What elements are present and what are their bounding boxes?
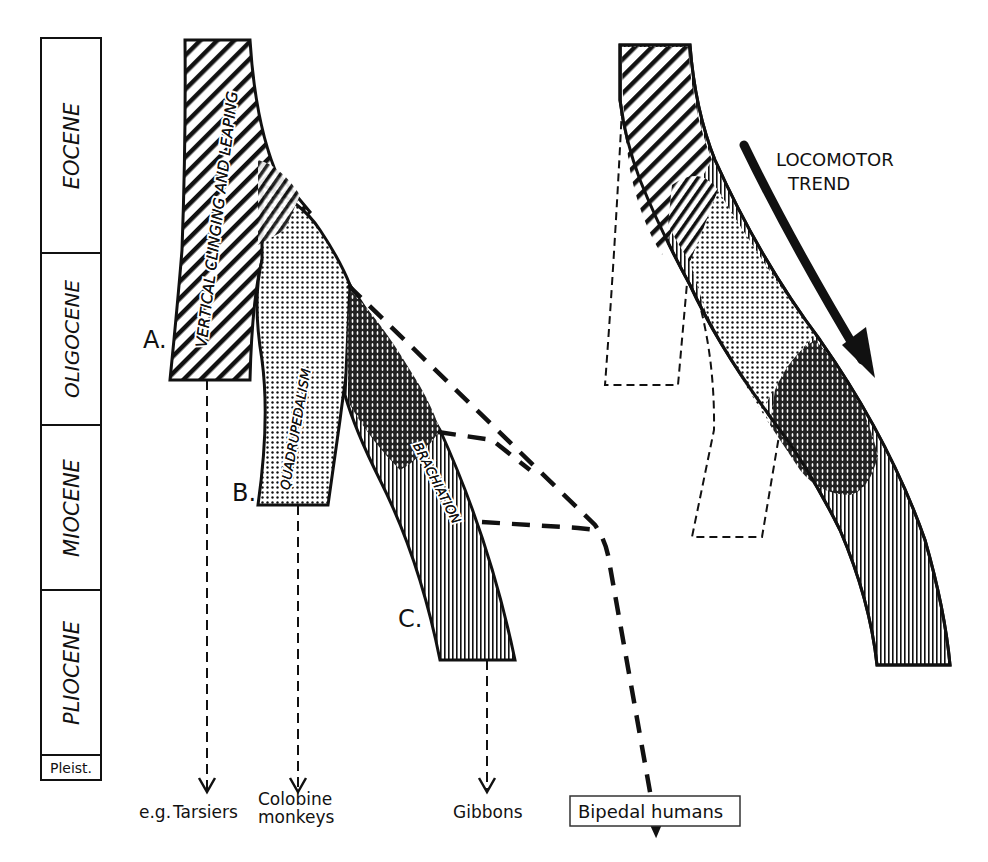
outcome-bipedal-humans: Bipedal humans: [578, 801, 723, 822]
outcome-tarsiers: Tarsiers: [172, 802, 238, 822]
epoch-label-oligocene: OLIGOCENE: [60, 280, 84, 399]
example-prefix: e.g.: [139, 802, 171, 822]
lineage-marker-a: A.: [143, 326, 167, 354]
epoch-label-eocene: EOCENE: [60, 102, 84, 189]
locomotor-evolution-diagram: EOCENE OLIGOCENE MIOCENE PLIOCENE Pleist…: [0, 0, 988, 862]
epoch-label-pleistocene: Pleist.: [50, 760, 92, 776]
bipedal-branch-dashed-line-2: [482, 522, 598, 530]
locomotor-trend-panel: LOCOMOTOR TREND: [605, 45, 950, 665]
trend-label-line1: LOCOMOTOR: [776, 149, 894, 170]
trend-label-line2: TREND: [787, 173, 850, 194]
lineage-marker-b: B.: [232, 479, 256, 507]
outcome-colobine-line2: monkeys: [258, 807, 334, 827]
outcome-colobine-line1: Colobine: [258, 789, 332, 809]
outcome-gibbons: Gibbons: [453, 802, 523, 822]
geologic-time-scale: EOCENE OLIGOCENE MIOCENE PLIOCENE Pleist…: [41, 38, 101, 780]
phylogeny-tree: A. B. C. VERTICAL CLINGING AND LEAPING V…: [143, 40, 667, 832]
outcome-labels: e.g. Tarsiers Colobine monkeys Gibbons B…: [139, 789, 740, 827]
epoch-label-miocene: MIOCENE: [60, 458, 84, 556]
lineage-marker-c: C.: [398, 605, 422, 633]
epoch-label-pliocene: PLIOCENE: [60, 620, 84, 725]
